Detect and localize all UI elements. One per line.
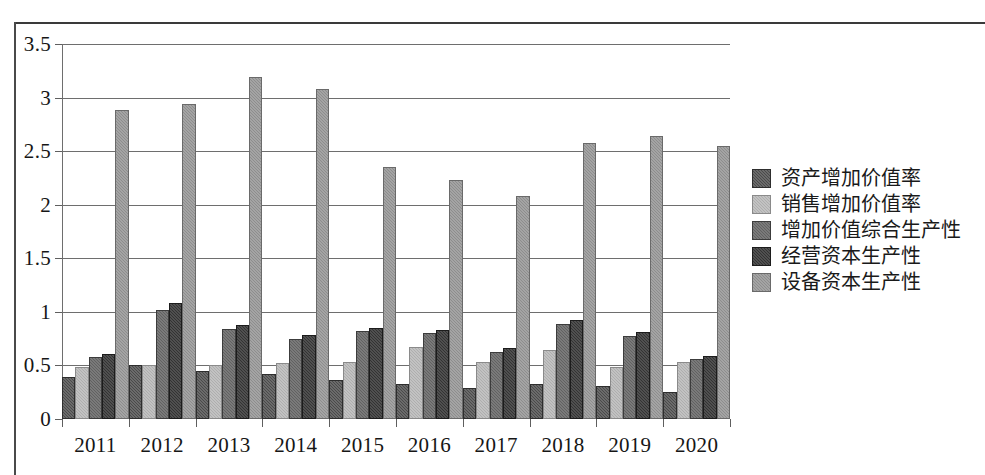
x-axis-tick-mark (396, 419, 397, 427)
bar[interactable] (650, 136, 663, 419)
bar-group (396, 44, 463, 419)
bar-group (262, 44, 329, 419)
bar-group (530, 44, 597, 419)
bar[interactable] (396, 384, 409, 419)
legend-swatch-icon (752, 247, 771, 266)
bar-group (196, 44, 263, 419)
bar[interactable] (636, 332, 649, 419)
bar[interactable] (570, 320, 583, 420)
legend-item[interactable]: 设备资本生产性 (752, 272, 961, 292)
bar[interactable] (329, 380, 342, 420)
x-axis-tick-label: 2014 (274, 433, 317, 458)
bar[interactable] (62, 377, 75, 419)
bar[interactable] (596, 386, 609, 419)
bar[interactable] (436, 330, 449, 419)
legend-item[interactable]: 销售增加价值率 (752, 194, 961, 214)
x-axis-tick-label: 2012 (141, 433, 184, 458)
bar[interactable] (236, 325, 249, 419)
bar[interactable] (289, 339, 302, 419)
bar[interactable] (115, 110, 128, 420)
bar-group (663, 44, 730, 419)
x-axis-tick-label: 2017 (475, 433, 518, 458)
legend-label: 经营资本生产性 (781, 246, 921, 266)
legend-label: 销售增加价值率 (781, 194, 921, 214)
x-axis-tick-mark (730, 419, 731, 427)
x-axis-tick-mark (329, 419, 330, 427)
bar[interactable] (209, 365, 222, 420)
bar[interactable] (276, 363, 289, 419)
legend-swatch-icon (752, 221, 771, 240)
bar[interactable] (316, 89, 329, 419)
bar[interactable] (302, 335, 315, 420)
x-axis-tick-label: 2019 (608, 433, 651, 458)
bar[interactable] (476, 362, 489, 419)
x-axis-tick-mark (596, 419, 597, 427)
bar[interactable] (343, 362, 356, 419)
bar[interactable] (249, 77, 262, 419)
bar[interactable] (623, 336, 636, 419)
bar[interactable] (356, 331, 369, 419)
chart-legend: 资产增加价值率销售增加价值率增加价值综合生产性经营资本生产性设备资本生产性 (752, 168, 961, 292)
legend-swatch-icon (752, 169, 771, 188)
y-axis-tick-mark (55, 205, 62, 206)
y-axis-tick-label: 1 (40, 299, 51, 324)
bar[interactable] (89, 357, 102, 419)
y-axis-tick-label: 3.5 (24, 32, 51, 57)
y-axis-tick-mark (55, 365, 62, 366)
chart-figure: 00.511.522.533.5 20112012201320142015201… (0, 0, 985, 475)
bar[interactable] (262, 374, 275, 419)
legend-swatch-icon (752, 273, 771, 292)
legend-item[interactable]: 资产增加价值率 (752, 168, 961, 188)
x-axis-tick-mark (62, 419, 63, 427)
bar[interactable] (75, 367, 88, 419)
y-axis-tick-label: 0 (40, 407, 51, 432)
bar[interactable] (690, 359, 703, 419)
bar[interactable] (222, 329, 235, 419)
bar[interactable] (156, 310, 169, 419)
x-axis-tick-label: 2011 (74, 433, 116, 458)
bar[interactable] (677, 362, 690, 419)
bar[interactable] (543, 350, 556, 420)
y-axis-tick-mark (55, 419, 62, 420)
bar[interactable] (409, 347, 422, 419)
y-axis-tick-mark (55, 312, 62, 313)
x-axis-tick-label: 2020 (675, 433, 718, 458)
legend-item[interactable]: 经营资本生产性 (752, 246, 961, 266)
x-axis-tick-mark (129, 419, 130, 427)
bar[interactable] (369, 328, 382, 419)
bar[interactable] (583, 143, 596, 419)
bar[interactable] (463, 388, 476, 419)
y-axis-tick-label: 1.5 (24, 246, 51, 271)
y-axis-tick-label: 2 (40, 192, 51, 217)
bar[interactable] (102, 354, 115, 419)
bar[interactable] (516, 196, 529, 419)
bar[interactable] (129, 365, 142, 420)
bar[interactable] (423, 333, 436, 419)
bar[interactable] (196, 371, 209, 419)
bar[interactable] (663, 392, 676, 419)
bar-group (329, 44, 396, 419)
bar[interactable] (383, 167, 396, 419)
bar-group (596, 44, 663, 419)
plot-area: 00.511.522.533.5 20112012201320142015201… (62, 44, 730, 419)
x-axis-tick-mark (463, 419, 464, 427)
bar[interactable] (717, 146, 730, 419)
bar[interactable] (703, 356, 716, 419)
bar[interactable] (610, 367, 623, 419)
bar[interactable] (556, 324, 569, 419)
bar[interactable] (142, 365, 155, 420)
x-axis-tick-mark (663, 419, 664, 427)
y-axis-tick-mark (55, 258, 62, 259)
x-axis-tick-label: 2015 (341, 433, 384, 458)
legend-item[interactable]: 增加价值综合生产性 (752, 220, 961, 240)
bar[interactable] (182, 104, 195, 419)
x-axis-tick-label: 2018 (541, 433, 584, 458)
legend-label: 设备资本生产性 (781, 272, 921, 292)
bar[interactable] (169, 303, 182, 419)
legend-swatch-icon (752, 195, 771, 214)
y-axis-tick-mark (55, 151, 62, 152)
bar[interactable] (449, 180, 462, 419)
bar[interactable] (503, 348, 516, 419)
bar[interactable] (530, 384, 543, 419)
bar[interactable] (490, 352, 503, 419)
